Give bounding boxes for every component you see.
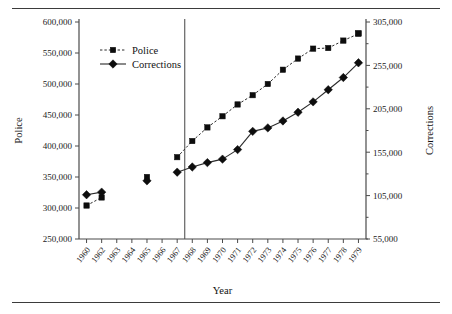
- x-axis-tick-label: 1974: [271, 245, 289, 264]
- x-axis-title: Year: [213, 285, 233, 296]
- x-axis-tick-label: 1977: [316, 246, 333, 265]
- x-axis-tick-label: 1979: [347, 246, 364, 265]
- right-axis-tick-label: 205,000: [373, 104, 403, 114]
- right-axis: 55,000105,000155,000205,000255,000305,00…: [366, 17, 403, 244]
- square-marker: [84, 203, 89, 208]
- axis-titles: YearPoliceCorrections: [13, 106, 435, 296]
- right-axis-tick-label: 55,000: [373, 234, 398, 244]
- diamond-marker: [82, 191, 90, 199]
- square-marker: [310, 46, 315, 51]
- x-axis-tick-label: 1972: [241, 246, 258, 265]
- legend-label: Police: [132, 45, 159, 56]
- figure-container: 250,000300,000350,000400,000450,000500,0…: [0, 0, 452, 314]
- square-marker: [174, 154, 179, 159]
- legend-label: Corrections: [132, 59, 181, 70]
- bottom-divider-rule: [12, 302, 440, 303]
- left-axis-tick-label: 400,000: [43, 141, 73, 151]
- left-axis: 250,000300,000350,000400,000450,000500,0…: [43, 17, 79, 244]
- diamond-marker: [109, 60, 117, 68]
- square-marker: [295, 56, 300, 61]
- diamond-marker: [279, 117, 287, 125]
- square-marker: [326, 45, 331, 50]
- x-axis-tick-label: 1970: [211, 246, 228, 265]
- diamond-marker: [294, 108, 302, 116]
- x-axis-tick-label: 1964: [120, 245, 138, 264]
- diamond-marker: [218, 155, 226, 163]
- square-marker: [341, 38, 346, 43]
- x-axis-tick-label: 1978: [332, 246, 349, 265]
- square-marker: [280, 67, 285, 72]
- diamond-marker: [173, 168, 181, 176]
- square-marker: [205, 125, 210, 130]
- diamond-marker: [264, 124, 272, 132]
- x-axis-tick-label: 1975: [286, 246, 303, 265]
- left-axis-tick-label: 350,000: [43, 172, 73, 182]
- square-marker: [265, 81, 270, 86]
- x-axis-tick-label: 1963: [105, 246, 122, 265]
- x-axis-tick-label: 1966: [150, 246, 167, 265]
- left-axis-tick-label: 300,000: [43, 203, 73, 213]
- legend-item-police: Police: [100, 45, 159, 56]
- left-axis-tick-label: 600,000: [43, 17, 73, 27]
- x-axis: 1960196219631964196519661967196819691970…: [75, 239, 368, 264]
- x-axis-tick-label: 1969: [196, 246, 213, 265]
- right-axis-tick-label: 305,000: [373, 17, 403, 27]
- square-marker: [356, 30, 361, 35]
- right-axis-tick-label: 105,000: [373, 191, 403, 201]
- x-axis-tick-label: 1976: [301, 246, 318, 265]
- data-series-group: [82, 30, 362, 208]
- x-axis-tick-label: 1973: [256, 246, 273, 265]
- chart-canvas: 250,000300,000350,000400,000450,000500,0…: [0, 0, 452, 314]
- diamond-marker: [203, 158, 211, 166]
- left-axis-tick-label: 550,000: [43, 48, 73, 58]
- square-marker: [250, 92, 255, 97]
- left-axis-tick-label: 450,000: [43, 110, 73, 120]
- chart-legend: PoliceCorrections: [100, 45, 181, 70]
- x-axis-tick-label: 1967: [165, 246, 182, 265]
- square-marker: [110, 47, 115, 52]
- legend-item-corrections: Corrections: [100, 59, 181, 70]
- x-axis-tick-label: 1971: [226, 246, 243, 265]
- right-axis-tick-label: 155,000: [373, 148, 403, 158]
- left-axis-title: Police: [13, 117, 24, 144]
- left-axis-tick-label: 250,000: [43, 234, 73, 244]
- square-marker: [190, 138, 195, 143]
- x-axis-tick-label: 1968: [180, 246, 197, 265]
- right-axis-title: Corrections: [424, 106, 435, 155]
- series-police: [84, 30, 361, 208]
- square-marker: [220, 114, 225, 119]
- series-corrections: [82, 59, 362, 199]
- right-axis-tick-label: 255,000: [373, 61, 403, 71]
- diamond-marker: [188, 163, 196, 171]
- x-axis-tick-label: 1965: [135, 246, 152, 265]
- x-axis-tick-label: 1960: [75, 246, 92, 265]
- x-axis-tick-label: 1962: [90, 246, 107, 265]
- square-marker: [235, 102, 240, 107]
- top-divider-rule: [12, 8, 440, 9]
- left-axis-tick-label: 500,000: [43, 79, 73, 89]
